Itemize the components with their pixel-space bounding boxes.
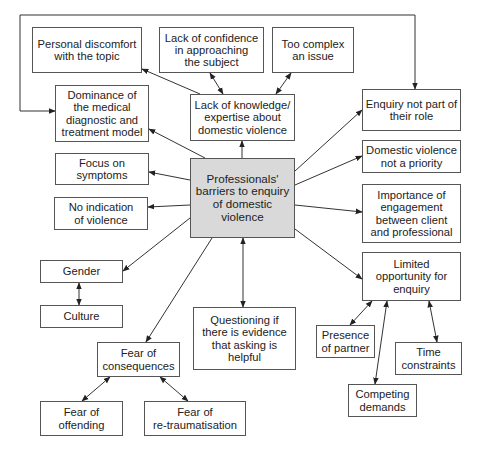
node-enquiry-not-role: Enquiry not part of their role <box>362 89 461 131</box>
node-importance-engagement: Importance of engagement between client … <box>362 184 461 243</box>
node-too-complex: Too complex an issue <box>272 27 354 73</box>
connector-lack-knowledge-to-too-complex <box>276 73 291 94</box>
node-lack-knowledge: Lack of knowledge/ expertise about domes… <box>190 94 295 141</box>
connector-central-to-limited-opportunity <box>295 229 362 279</box>
connector-limited-opportunity-to-presence-partner <box>350 301 372 325</box>
connector-fear-consequences-to-fear-offending <box>82 377 110 401</box>
node-gender: Gender <box>40 260 123 283</box>
node-competing-demands: Competing demands <box>348 384 417 417</box>
connector-central-to-no-indication <box>148 205 190 207</box>
node-culture: Culture <box>40 305 123 328</box>
connector-central-to-enquiry-not-role <box>295 110 362 171</box>
node-fear-consequences: Fear of consequences <box>97 342 180 377</box>
node-fear-retraumatisation: Fear of re-traumatisation <box>144 401 246 436</box>
node-personal-discomfort: Personal discomfort with the topic <box>32 27 142 73</box>
connector-central-to-dv-not-priority <box>295 156 362 185</box>
node-time-constraints: Time constraints <box>395 342 462 375</box>
connector-fear-consequences-to-fear-retraumatisation <box>160 377 188 401</box>
node-no-indication: No indication of violence <box>54 197 148 230</box>
connector-central-to-importance-engagement <box>295 205 362 212</box>
connector-central-to-focus-symptoms <box>149 172 190 180</box>
node-dv-not-priority: Domestic violence not a priority <box>362 140 461 173</box>
node-central: Professionals' barriers to enquiry of do… <box>190 158 295 238</box>
node-limited-opportunity: Limited opportunity for enquiry <box>362 252 461 301</box>
node-presence-partner: Presence of partner <box>316 325 375 358</box>
connector-lack-knowledge-to-lack-confidence <box>210 73 223 94</box>
node-fear-offending: Fear of offending <box>40 401 123 436</box>
node-focus-symptoms: Focus on symptoms <box>55 153 149 185</box>
connector-limited-opportunity-to-competing-demands <box>375 301 387 384</box>
node-lack-confidence: Lack of confidence in approaching the su… <box>159 27 264 73</box>
connector-limited-opportunity-to-time-constraints <box>429 301 437 342</box>
concept-diagram: Professionals' barriers to enquiry of do… <box>0 0 478 453</box>
node-dominance: Dominance of the medical diagnostic and … <box>55 85 149 142</box>
node-questioning-evidence: Questioning if there is evidence that as… <box>193 307 296 370</box>
